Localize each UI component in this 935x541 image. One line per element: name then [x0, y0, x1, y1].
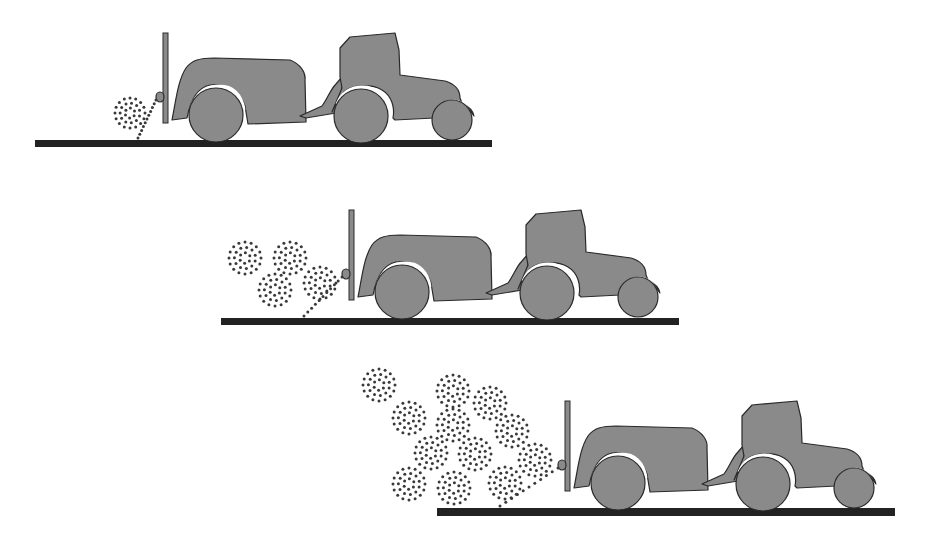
spray-stream-dot: [142, 125, 145, 128]
droplet-cloud-icon: [303, 266, 338, 301]
droplet-cloud-icon: [437, 471, 472, 506]
ground-line: [437, 508, 895, 516]
spray-stream-dot: [551, 470, 554, 473]
spray-stream-dot: [310, 307, 313, 310]
spray-stream-dot: [153, 102, 156, 105]
spray-stream-dot: [322, 295, 325, 298]
droplet-cloud-icon: [392, 401, 427, 436]
stage-panel-3: [362, 368, 896, 517]
droplet-cloud-icon: [392, 467, 427, 502]
spray-drift-clouds: [362, 368, 560, 508]
spray-stream-dot: [522, 489, 525, 492]
spray-stream-dot: [137, 137, 140, 140]
droplet-cloud-icon: [436, 374, 471, 409]
tractor-sprayer-icon: [342, 210, 660, 320]
spray-stream-dot: [140, 129, 143, 132]
spray-stream-dot: [325, 291, 328, 294]
spray-drift-clouds: [114, 97, 158, 140]
droplet-cloud-icon: [458, 437, 493, 472]
tractor-sprayer-icon: [156, 33, 474, 143]
spray-stream-dot: [539, 478, 542, 481]
ground-line: [221, 318, 679, 325]
stage-panel-2: [221, 210, 679, 325]
spray-stream-dot: [306, 311, 309, 314]
spray-stream-dot: [545, 474, 548, 477]
spray-stream-dot: [151, 106, 154, 109]
droplet-cloud-icon: [258, 273, 293, 308]
ground-line: [35, 140, 492, 147]
spray-stream-dot: [533, 482, 536, 485]
droplet-cloud-icon: [414, 436, 449, 471]
droplet-cloud-icon: [273, 241, 308, 276]
spray-stream-dot: [504, 501, 507, 504]
spray-stream-dot: [337, 279, 340, 282]
spray-stream-dot: [341, 276, 344, 279]
spray-stream-dot: [318, 299, 321, 302]
spray-stream-dot: [333, 283, 336, 286]
droplet-cloud-icon: [228, 241, 263, 276]
spray-stream-dot: [149, 110, 152, 113]
droplet-cloud-icon: [114, 97, 147, 130]
spray-stream-dot: [147, 114, 150, 117]
spray-stream-dot: [499, 505, 502, 508]
droplet-cloud-icon: [518, 443, 553, 478]
spray-stream-dot: [528, 486, 531, 489]
droplet-cloud-icon: [362, 368, 397, 403]
spray-stream-dot: [138, 133, 141, 136]
spray-stream-dot: [146, 118, 149, 121]
spray-stream-dot: [516, 493, 519, 496]
droplet-cloud-icon: [473, 386, 508, 421]
spray-stream-dot: [303, 315, 306, 318]
tractor-sprayer-icon: [558, 401, 876, 511]
droplet-cloud-icon: [495, 414, 530, 449]
stage-panel-1: [35, 33, 492, 147]
spray-stream-dot: [314, 303, 317, 306]
spray-stream-dot: [144, 121, 147, 124]
spray-stream-dot: [329, 287, 332, 290]
sprayer-drift-diagram: [0, 0, 935, 541]
spray-stream-dot: [557, 467, 560, 470]
spray-stream-dot: [155, 99, 158, 102]
droplet-cloud-icon: [436, 408, 471, 443]
spray-stream-dot: [510, 497, 513, 500]
spray-drift-clouds: [228, 241, 344, 318]
